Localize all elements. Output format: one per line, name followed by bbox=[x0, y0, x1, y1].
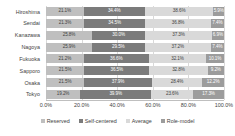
x-tick-label: 60.0% bbox=[145, 102, 160, 108]
category-label: Osaka bbox=[0, 78, 43, 87]
bar-row: 25.9%29.5%37.2%7.4% bbox=[46, 43, 224, 52]
bar-segment-label: 7.4% bbox=[212, 45, 222, 50]
bar-segment-label: 6.9% bbox=[213, 33, 223, 38]
bar-segment-label: 21.1% bbox=[59, 9, 72, 14]
chart-legend: ReservedSelf-centeredAverageRole-model bbox=[0, 118, 235, 124]
legend-swatch-icon bbox=[161, 119, 165, 123]
category-label: Kanazawa bbox=[0, 31, 43, 40]
legend-item[interactable]: Role-model bbox=[161, 118, 195, 124]
bar-segment: 37.9% bbox=[84, 78, 151, 87]
category-label: Tokyo bbox=[0, 90, 43, 99]
bar-row: 21.2%36.6%32.1%10.1% bbox=[46, 54, 224, 63]
bar-row: 25.8%30.0%37.3%6.9% bbox=[46, 31, 224, 40]
bar-segment-label: 37.9% bbox=[112, 80, 125, 85]
bar-segment-label: 28.4% bbox=[171, 80, 184, 85]
bar-segment-label: 34.5% bbox=[108, 21, 121, 26]
bar-segment: 21.2% bbox=[46, 54, 84, 63]
bar-segment-label: 39.9% bbox=[109, 92, 122, 97]
bar-segment-label: 21.3% bbox=[59, 21, 72, 26]
bar-row: 21.1%34.4%38.6%5.9% bbox=[46, 7, 224, 16]
bar-segment: 21.5% bbox=[46, 78, 84, 87]
x-tick-label: 20.0% bbox=[74, 102, 89, 108]
bar-segment-label: 37.3% bbox=[172, 33, 185, 38]
bar-segment: 38.6% bbox=[145, 7, 214, 16]
bar-segment-label: 32.1% bbox=[171, 57, 184, 62]
bar-segment: 29.5% bbox=[92, 43, 145, 52]
bar-segment-label: 7.4% bbox=[212, 21, 222, 26]
bar-row: 21.5%37.9%28.4%12.2% bbox=[46, 78, 224, 87]
bar-segment: 12.2% bbox=[202, 78, 224, 87]
bar-segment: 28.4% bbox=[152, 78, 203, 87]
bar-segment-label: 21.5% bbox=[59, 68, 72, 73]
bar-segment: 32.8% bbox=[149, 66, 207, 75]
bar-segment-label: 25.8% bbox=[63, 33, 76, 38]
x-axis-line bbox=[46, 100, 224, 101]
bar-segment: 7.4% bbox=[211, 19, 224, 28]
category-label: Sapporo bbox=[0, 66, 43, 75]
bar-segment-label: 19.2% bbox=[57, 92, 70, 97]
x-tick-label: 40.0% bbox=[110, 102, 125, 108]
bar-segment-label: 21.5% bbox=[59, 80, 72, 85]
x-tick-label: 100.0% bbox=[215, 102, 233, 108]
legend-item[interactable]: Self-centered bbox=[79, 118, 117, 124]
bar-segment-label: 36.6% bbox=[110, 57, 123, 62]
bar-segment-label: 5.9% bbox=[214, 9, 224, 14]
bar-segment: 37.2% bbox=[145, 43, 211, 52]
bar-segment-label: 9.2% bbox=[211, 68, 221, 73]
category-label: Fukuoka bbox=[0, 54, 43, 63]
bar-segment-label: 21.2% bbox=[59, 57, 72, 62]
bar-segment-label: 36.5% bbox=[110, 68, 123, 73]
x-tick-label: 0.0% bbox=[40, 102, 52, 108]
category-label: Sendai bbox=[0, 19, 43, 28]
legend-swatch-icon bbox=[126, 119, 130, 123]
bar-segment: 34.5% bbox=[84, 19, 145, 28]
bar-segment-label: 32.8% bbox=[172, 68, 185, 73]
bar-segment: 32.1% bbox=[149, 54, 206, 63]
bar-segment: 6.9% bbox=[212, 31, 224, 40]
bar-segment-label: 25.9% bbox=[63, 45, 76, 50]
legend-label: Role-model bbox=[167, 118, 195, 124]
plot-area: 21.1%34.4%38.6%5.9%21.3%34.5%36.8%7.4%25… bbox=[46, 6, 224, 100]
bar-segment: 36.5% bbox=[84, 66, 149, 75]
bar-row: 21.3%34.5%36.8%7.4% bbox=[46, 19, 224, 28]
legend-item[interactable]: Average bbox=[126, 118, 152, 124]
bar-segment: 21.5% bbox=[46, 66, 84, 75]
bar-segment-label: 34.4% bbox=[108, 9, 121, 14]
bar-segment: 23.6% bbox=[151, 90, 193, 99]
category-label: Hiroshima bbox=[0, 7, 43, 16]
bar-segment: 39.9% bbox=[80, 90, 151, 99]
bar-segment-label: 12.2% bbox=[207, 80, 220, 85]
bar-segment-label: 23.6% bbox=[166, 92, 179, 97]
bar-segment: 36.6% bbox=[84, 54, 149, 63]
bar-segment-label: 29.5% bbox=[112, 45, 125, 50]
legend-item[interactable]: Reserved bbox=[41, 118, 70, 124]
legend-label: Reserved bbox=[47, 118, 70, 124]
category-label: Nagoya bbox=[0, 43, 43, 52]
bar-segment-label: 17.3% bbox=[202, 92, 215, 97]
legend-swatch-icon bbox=[79, 119, 83, 123]
bar-segment: 21.3% bbox=[46, 19, 84, 28]
stacked-bar-chart: 21.1%34.4%38.6%5.9%21.3%34.5%36.8%7.4%25… bbox=[0, 0, 235, 136]
bar-segment: 17.3% bbox=[193, 90, 224, 99]
bar-segment-label: 38.6% bbox=[173, 9, 186, 14]
bar-segment: 21.1% bbox=[46, 7, 84, 16]
bar-segment: 34.4% bbox=[84, 7, 145, 16]
bar-segment: 19.2% bbox=[46, 90, 80, 99]
bar-segment: 37.3% bbox=[145, 31, 211, 40]
bar-segment-label: 10.1% bbox=[209, 57, 222, 62]
legend-label: Self-centered bbox=[85, 118, 117, 124]
bar-segment: 25.9% bbox=[46, 43, 92, 52]
bar-segment: 25.8% bbox=[46, 31, 92, 40]
bar-segment-label: 30.0% bbox=[112, 33, 125, 38]
bar-segment: 9.2% bbox=[208, 66, 224, 75]
bar-segment-label: 36.8% bbox=[172, 21, 185, 26]
bar-rows: 21.1%34.4%38.6%5.9%21.3%34.5%36.8%7.4%25… bbox=[46, 6, 224, 100]
gridline bbox=[224, 6, 225, 100]
legend-swatch-icon bbox=[41, 119, 45, 123]
value-axis-labels: 0.0%20.0%40.0%60.0%80.0%100.0% bbox=[46, 102, 224, 112]
category-axis-labels: HiroshimaSendaiKanazawaNagoyaFukuokaSapp… bbox=[0, 6, 43, 100]
x-tick-label: 80.0% bbox=[181, 102, 196, 108]
legend-label: Average bbox=[132, 118, 152, 124]
bar-segment: 36.8% bbox=[145, 19, 211, 28]
bar-row: 21.5%36.5%32.8%9.2% bbox=[46, 66, 224, 75]
